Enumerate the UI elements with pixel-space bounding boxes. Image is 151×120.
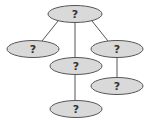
node-middle: ? <box>50 58 102 75</box>
node-left: ? <box>7 41 59 58</box>
node-label: ? <box>114 43 120 56</box>
node-label: ? <box>73 60 79 73</box>
edge-root-right <box>92 21 108 41</box>
node-label: ? <box>72 8 78 21</box>
node-label: ? <box>114 80 120 93</box>
node-middle-child: ? <box>50 101 102 118</box>
node-root: ? <box>48 6 102 23</box>
node-right: ? <box>91 41 143 58</box>
node-label: ? <box>30 43 36 56</box>
edge-root-left <box>42 21 58 41</box>
node-label: ? <box>73 103 79 116</box>
node-right-child: ? <box>91 78 143 95</box>
tree-diagram: ? ? ? ? ? ? <box>0 0 151 120</box>
